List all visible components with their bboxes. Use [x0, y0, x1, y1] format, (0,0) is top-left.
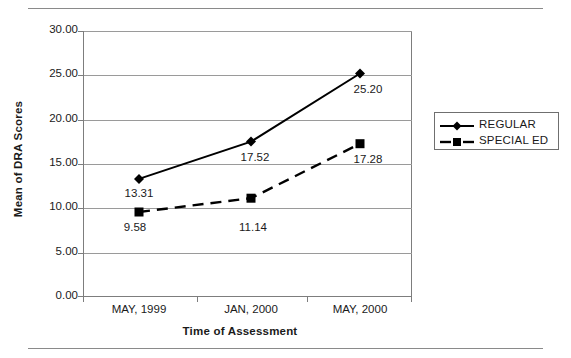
y-axis-tick-labels: 0.00 5.00 10.00 15.00 20.00 25.00 30.00 — [26, 31, 78, 297]
legend-key-diamond-icon — [440, 118, 474, 130]
clipped-caption — [95, 0, 395, 3]
x-axis-tick-labels: MAY, 1999 JAN, 2000 MAY, 2000 — [83, 303, 412, 319]
marker-diamond — [134, 174, 144, 184]
bottom-rule — [28, 348, 543, 349]
legend-key-square-icon — [440, 134, 474, 146]
legend-label: REGULAR — [479, 118, 536, 130]
x-axis-title: Time of Assessment — [0, 325, 480, 337]
data-label: 17.28 — [354, 153, 383, 165]
legend-item-regular[interactable]: REGULAR — [440, 116, 536, 132]
y-tick-label: 5.00 — [32, 245, 78, 257]
legend-item-special-ed[interactable]: SPECIAL ED — [440, 132, 548, 148]
y-tick-label: 0.00 — [32, 289, 78, 301]
marker-diamond — [355, 69, 365, 79]
data-label: 13.31 — [125, 187, 154, 199]
chart-legend: REGULAR SPECIAL ED — [434, 112, 559, 150]
y-tick-label: 25.00 — [32, 67, 78, 79]
x-tick-label: JAN, 2000 — [224, 303, 278, 315]
marker-diamond — [246, 137, 256, 147]
y-tick-label: 20.00 — [32, 112, 78, 124]
data-label: 17.52 — [241, 151, 270, 163]
data-label: 11.14 — [239, 221, 267, 233]
series-line-regular — [139, 74, 360, 179]
data-label: 9.58 — [124, 221, 146, 233]
y-tick-label: 30.00 — [32, 23, 78, 35]
marker-square — [135, 208, 144, 217]
marker-square — [247, 194, 256, 203]
x-tick-label: MAY, 1999 — [112, 303, 167, 315]
y-tick-label: 15.00 — [32, 156, 78, 168]
figure-canvas: 0.00 5.00 10.00 15.00 20.00 25.00 30.00 … — [0, 0, 571, 358]
y-tick-label: 10.00 — [32, 200, 78, 212]
y-axis-title: Mean of DRA Scores — [12, 99, 24, 219]
legend-label: SPECIAL ED — [479, 134, 548, 146]
data-label: 25.20 — [354, 83, 383, 95]
plot-area: 13.31 17.52 25.20 9.58 11.14 17.28 — [83, 31, 411, 296]
x-tick-label: MAY, 2000 — [333, 303, 388, 315]
x-tick — [411, 296, 412, 302]
top-rule — [28, 8, 543, 9]
marker-square — [356, 139, 365, 148]
